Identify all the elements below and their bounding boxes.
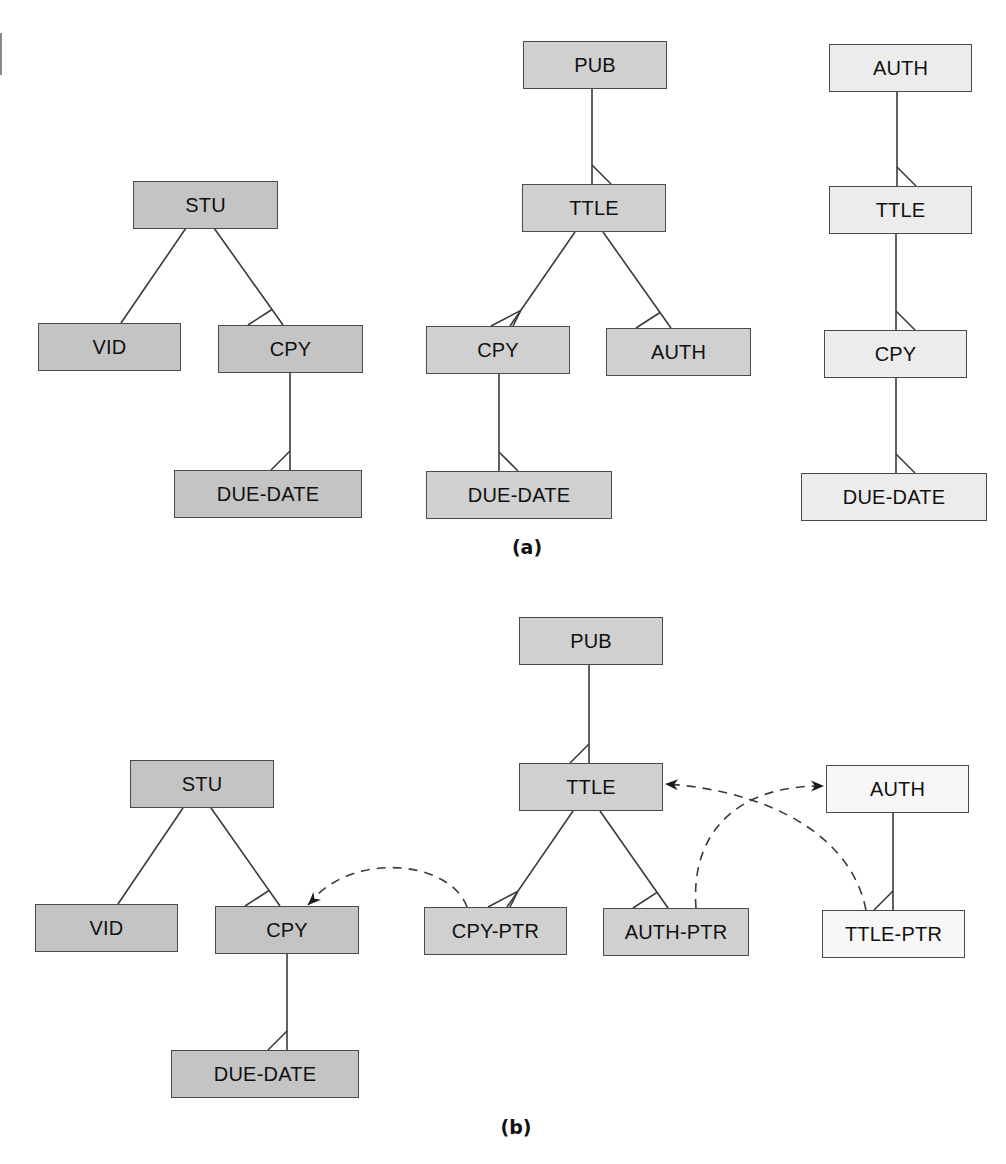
entity-box-stu: STU bbox=[130, 760, 274, 808]
entity-box-ttle: TTLE bbox=[829, 186, 972, 234]
crows-foot-icon bbox=[248, 310, 272, 325]
crows-foot-icon bbox=[499, 452, 518, 471]
entity-box-auth: AUTH bbox=[606, 328, 751, 376]
panel-b-caption: (b) bbox=[501, 1116, 532, 1138]
relationship-line bbox=[603, 232, 671, 328]
crows-foot-icon bbox=[488, 891, 518, 907]
crows-foot-icon bbox=[874, 891, 893, 910]
crows-foot-icon bbox=[897, 167, 916, 186]
entity-box-ttle-ptr: TTLE-PTR bbox=[822, 910, 965, 958]
entity-label: CPY-PTR bbox=[452, 920, 539, 943]
crows-foot-icon bbox=[510, 891, 518, 907]
entity-box-cpy: CPY bbox=[426, 326, 570, 374]
entity-box-auth-ptr: AUTH-PTR bbox=[603, 908, 749, 956]
entity-box-pub: PUB bbox=[523, 41, 667, 89]
entity-label: AUTH bbox=[870, 778, 925, 801]
entity-box-due-date: DUE-DATE bbox=[174, 470, 362, 518]
crows-foot-icon bbox=[513, 310, 521, 326]
entity-label: TTLE-PTR bbox=[845, 923, 942, 946]
entity-label: CPY bbox=[270, 338, 312, 361]
entity-box-auth: AUTH bbox=[829, 44, 972, 92]
entity-label: VID bbox=[93, 336, 127, 359]
entity-label: AUTH bbox=[873, 57, 928, 80]
scan-artifact-line bbox=[0, 33, 2, 75]
diagram-canvas: STUVIDCPYDUE-DATEPUBTTLECPYAUTHDUE-DATEA… bbox=[0, 0, 1006, 1164]
entity-box-due-date: DUE-DATE bbox=[426, 471, 612, 519]
entity-label: TTLE bbox=[566, 776, 616, 799]
entity-box-due-date: DUE-DATE bbox=[801, 473, 987, 521]
entity-label: PUB bbox=[574, 54, 616, 77]
entity-box-cpy: CPY bbox=[218, 325, 363, 373]
crows-foot-icon bbox=[633, 892, 657, 908]
entity-label: STU bbox=[185, 194, 226, 217]
relationship-line bbox=[121, 228, 186, 323]
relationship-line bbox=[118, 808, 183, 904]
entity-label: DUE-DATE bbox=[843, 486, 945, 509]
crows-foot-icon bbox=[592, 165, 611, 184]
entity-box-cpy-ptr: CPY-PTR bbox=[424, 907, 567, 955]
entity-box-cpy: CPY bbox=[215, 906, 359, 954]
panel-a-caption: (a) bbox=[512, 536, 542, 558]
entity-box-pub: PUB bbox=[519, 617, 663, 665]
crows-foot-icon bbox=[636, 312, 660, 328]
entity-box-stu: STU bbox=[133, 181, 278, 229]
relationship-lines bbox=[0, 0, 1006, 1164]
crows-foot-icon bbox=[245, 890, 269, 906]
relationship-line bbox=[510, 232, 575, 326]
crows-foot-icon bbox=[491, 310, 521, 326]
entity-label: CPY bbox=[477, 339, 519, 362]
pointer-arc bbox=[696, 786, 823, 908]
entity-box-due-date: DUE-DATE bbox=[171, 1050, 359, 1098]
entity-label: VID bbox=[90, 917, 124, 940]
entity-label: TTLE bbox=[569, 197, 619, 220]
entity-box-ttle: TTLE bbox=[522, 184, 666, 232]
entity-label: DUE-DATE bbox=[217, 483, 319, 506]
arrowhead-icon bbox=[811, 781, 824, 792]
crows-foot-icon bbox=[896, 311, 915, 330]
entity-label: AUTH bbox=[651, 341, 706, 364]
arrowhead-icon bbox=[308, 892, 321, 905]
crows-foot-icon bbox=[570, 744, 589, 763]
entity-label: CPY bbox=[875, 343, 917, 366]
relationship-line bbox=[211, 808, 280, 906]
entity-label: DUE-DATE bbox=[214, 1063, 316, 1086]
entity-box-cpy: CPY bbox=[824, 330, 967, 378]
entity-label: AUTH-PTR bbox=[625, 921, 728, 944]
entity-label: CPY bbox=[266, 919, 308, 942]
entity-box-ttle: TTLE bbox=[519, 763, 663, 811]
arrowhead-icon bbox=[665, 779, 678, 790]
entity-label: DUE-DATE bbox=[468, 484, 570, 507]
entity-label: STU bbox=[182, 773, 223, 796]
entity-box-vid: VID bbox=[35, 904, 178, 952]
pointer-arc bbox=[308, 868, 467, 907]
relationship-line bbox=[600, 811, 668, 908]
relationship-line bbox=[214, 228, 283, 325]
entity-label: TTLE bbox=[876, 199, 926, 222]
entity-label: PUB bbox=[570, 630, 612, 653]
crows-foot-icon bbox=[896, 454, 915, 473]
entity-box-auth: AUTH bbox=[826, 765, 969, 813]
relationship-line bbox=[507, 811, 573, 907]
entity-box-vid: VID bbox=[38, 323, 181, 371]
crows-foot-icon bbox=[268, 1031, 287, 1050]
crows-foot-icon bbox=[271, 451, 290, 470]
